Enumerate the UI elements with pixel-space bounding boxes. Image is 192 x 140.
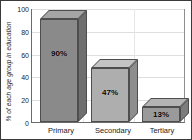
y-axis-title: % of each age group in education — [2, 1, 14, 140]
x-tick-label-tertiary: Tertiary — [134, 126, 190, 135]
y-axis-title-text: % of each age group in education — [5, 21, 12, 121]
y-tick-label-100: 100 — [17, 6, 29, 13]
bar-secondary-side — [129, 59, 138, 122]
bar-tertiary-value: 13% — [142, 110, 180, 119]
y-tick-label-60: 60 — [21, 51, 29, 58]
plot-area: 100 80 60 40 20 0 90% 47% 13% — [31, 9, 185, 123]
bar-secondary-value: 47% — [91, 88, 129, 97]
bar-primary-side — [78, 10, 87, 122]
x-tick-label-primary: Primary — [31, 126, 91, 135]
chart-frame: % of each age group in education 100 80 … — [0, 0, 192, 140]
bar-tertiary[interactable]: 13% — [142, 107, 180, 122]
y-tick-label-20: 20 — [21, 97, 29, 104]
y-tick-label-80: 80 — [21, 28, 29, 35]
bar-primary-value: 90% — [40, 49, 78, 58]
bar-primary[interactable]: 90% — [40, 19, 78, 122]
y-tick-label-40: 40 — [21, 74, 29, 81]
y-tick-label-0: 0 — [25, 120, 29, 127]
bar-secondary[interactable]: 47% — [91, 68, 129, 122]
bar-primary-front — [40, 19, 78, 122]
